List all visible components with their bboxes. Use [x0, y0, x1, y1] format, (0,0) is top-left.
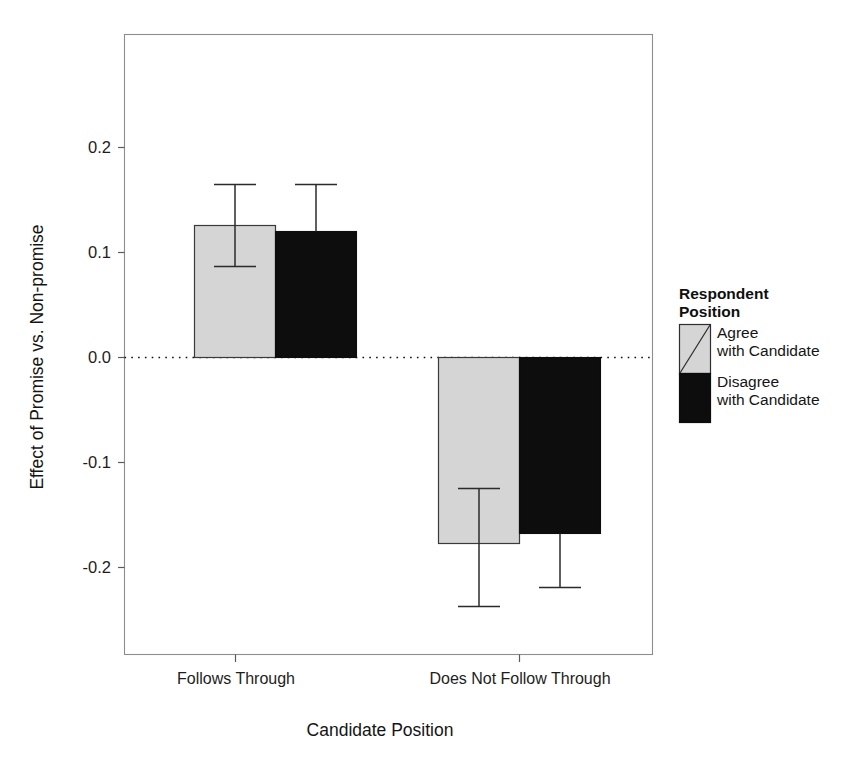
legend-title-line2: Position: [679, 303, 740, 320]
errorbar-disagree-does-not-follow-through: [539, 534, 581, 588]
legend-title-line1: Respondent: [679, 285, 769, 302]
legend-swatch-agree[interactable]: [680, 325, 711, 374]
x-tick-label-0: Follows Through: [177, 670, 295, 687]
x-tick-label-1: Does Not Follow Through: [429, 670, 610, 687]
y-axis-ticks: [118, 148, 125, 568]
y-tick-label-4: -0.2: [83, 558, 111, 576]
errorbar-disagree-follows-through: [295, 185, 337, 232]
x-axis-title: Candidate Position: [307, 720, 454, 740]
legend: Respondent Position Agree with Candidate…: [679, 285, 820, 423]
y-tick-label-1: 0.1: [88, 243, 111, 261]
legend-item1-line1: Agree: [717, 324, 758, 341]
x-axis-tick-labels: Follows Through Does Not Follow Through: [177, 670, 611, 687]
y-axis-tick-labels: 0.2 0.1 0.0 -0.1 -0.2: [83, 138, 111, 576]
x-axis-ticks: [236, 655, 520, 663]
y-axis-title: Effect of Promise vs. Non-promise: [27, 224, 47, 489]
bar-group-does-not-follow-through: [439, 358, 601, 607]
y-tick-label-2: 0.0: [88, 348, 111, 366]
legend-swatch-disagree[interactable]: [680, 374, 711, 423]
legend-item2-line1: Disagree: [717, 373, 779, 390]
chart-figure: 0.2 0.1 0.0 -0.1 -0.2 Effect of Promise …: [0, 0, 858, 767]
legend-item1-line2: with Candidate: [716, 342, 820, 359]
bar-disagree-follows-through[interactable]: [276, 232, 357, 358]
legend-item2-line2: with Candidate: [716, 391, 820, 408]
bar-group-follows-through: [195, 185, 357, 358]
bar-chart-svg: 0.2 0.1 0.0 -0.1 -0.2 Effect of Promise …: [0, 0, 858, 767]
y-tick-label-0: 0.2: [88, 138, 111, 156]
y-tick-label-3: -0.1: [83, 453, 111, 471]
bar-disagree-does-not-follow-through[interactable]: [520, 358, 601, 534]
